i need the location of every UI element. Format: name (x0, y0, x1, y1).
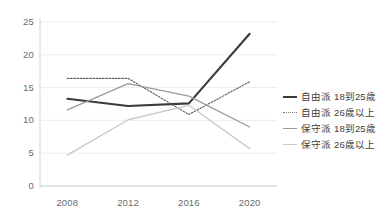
x-tick-label-2016: 2016 (167, 197, 211, 208)
y-tick-label-10: 10 (8, 114, 34, 125)
x-tick-label-2020: 2020 (228, 197, 272, 208)
data-series (67, 34, 249, 155)
x-tick-label-2008: 2008 (45, 197, 89, 208)
y-tick-label-5: 5 (8, 147, 34, 158)
series-line-0 (67, 34, 249, 106)
legend-item-label: 自由派 18到25歲 (301, 89, 376, 103)
x-tick-label-2012: 2012 (106, 197, 150, 208)
legend-item-1[interactable]: 自由派 26歲以上 (283, 104, 391, 120)
legend-item-label: 保守派 26歲以上 (301, 137, 375, 151)
y-tick-label-25: 25 (8, 16, 34, 27)
y-tick-label-20: 20 (8, 49, 34, 60)
legend-item-label: 自由派 26歲以上 (301, 105, 375, 119)
legend-line-icon (283, 139, 297, 149)
legend-item-0[interactable]: 自由派 18到25歲 (283, 88, 391, 104)
legend-line-icon (283, 107, 297, 117)
legend-line-icon (283, 123, 297, 133)
y-tick-label-15: 15 (8, 82, 34, 93)
series-line-1 (67, 78, 249, 114)
legend-item-label: 保守派 18到25歲 (301, 121, 376, 135)
legend-item-3[interactable]: 保守派 26歲以上 (283, 136, 391, 152)
y-tick-label-0: 0 (8, 180, 34, 191)
legend-item-2[interactable]: 保守派 18到25歲 (283, 120, 391, 136)
legend-line-icon (283, 91, 297, 101)
line-chart: 0510152025 2008201220162020 自由派 18到25歲自由… (0, 0, 392, 216)
chart-legend: 自由派 18到25歲自由派 26歲以上保守派 18到25歲保守派 26歲以上 (283, 88, 391, 152)
